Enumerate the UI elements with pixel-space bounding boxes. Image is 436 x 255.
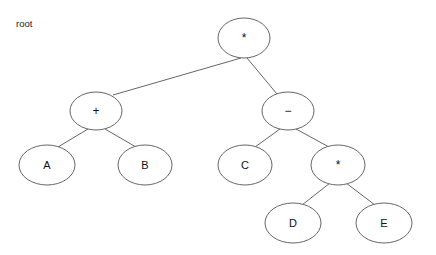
- node-label-d: D: [289, 217, 297, 229]
- tree-node-root[interactable]: *: [218, 18, 270, 58]
- node-label-e: E: [380, 217, 387, 229]
- root-caption-label: root: [16, 18, 33, 29]
- node-label-b: B: [141, 159, 148, 171]
- node-label-minus: −: [284, 104, 291, 118]
- tree-node-d[interactable]: D: [265, 203, 321, 243]
- tree-node-mul2[interactable]: *: [311, 145, 365, 185]
- node-label-root: *: [242, 31, 247, 45]
- tree-node-c[interactable]: C: [218, 145, 272, 185]
- tree-node-e[interactable]: E: [356, 203, 412, 243]
- tree-node-minus[interactable]: −: [262, 92, 314, 130]
- expression-tree-diagram: *+−ABC*DE root: [0, 0, 436, 255]
- node-label-a: A: [43, 159, 51, 171]
- tree-node-b[interactable]: B: [118, 145, 172, 185]
- tree-node-a[interactable]: A: [19, 145, 75, 185]
- node-label-plus: +: [92, 104, 99, 118]
- tree-node-plus[interactable]: +: [70, 92, 122, 130]
- node-label-mul2: *: [336, 158, 341, 172]
- node-label-c: C: [241, 159, 249, 171]
